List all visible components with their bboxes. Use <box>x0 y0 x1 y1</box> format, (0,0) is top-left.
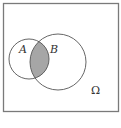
universe-frame <box>4 4 119 112</box>
universe-label: Ω <box>91 84 100 97</box>
venn-diagram: A B Ω <box>0 0 121 128</box>
set-b-label: B <box>49 43 58 56</box>
set-a-label: A <box>18 43 27 56</box>
